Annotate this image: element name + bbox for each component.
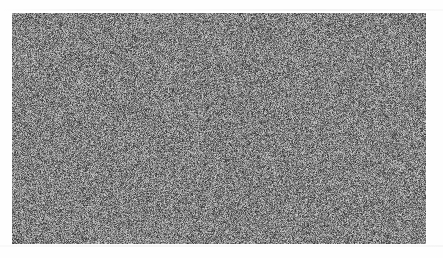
- noise-plate-figure: [0, 0, 443, 258]
- noise-field: [12, 13, 426, 244]
